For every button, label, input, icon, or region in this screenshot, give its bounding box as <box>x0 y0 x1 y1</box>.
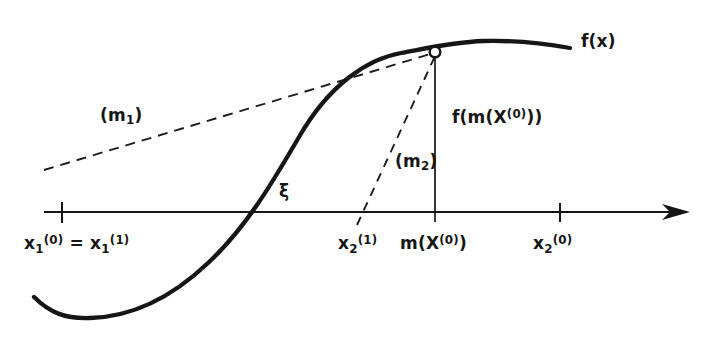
tick-label-x2-iter1: x2(1) <box>338 233 377 256</box>
function-curve-fx <box>34 41 570 318</box>
slope-m1-label: (m1) <box>100 105 142 127</box>
x-axis-group <box>44 204 690 220</box>
tick-label-x1: x1(0) = x1(1) <box>24 233 130 256</box>
slope-m2-label: (m2) <box>395 151 437 173</box>
open-circle-point <box>430 47 441 58</box>
tick-label-midpoint: m(X(0)) <box>400 233 467 253</box>
function-curve-label: f(x) <box>581 31 616 51</box>
tick-label-x2-iter0: x2(0) <box>533 233 572 256</box>
math-figure-container: f(x) f(m(X(0))) ξ (m1) (m2) x1(0) = x1(1… <box>0 0 707 337</box>
root-xi-label: ξ <box>279 181 289 201</box>
function-value-label: f(m(X(0))) <box>452 107 542 127</box>
secant-line-m2 <box>357 54 436 225</box>
